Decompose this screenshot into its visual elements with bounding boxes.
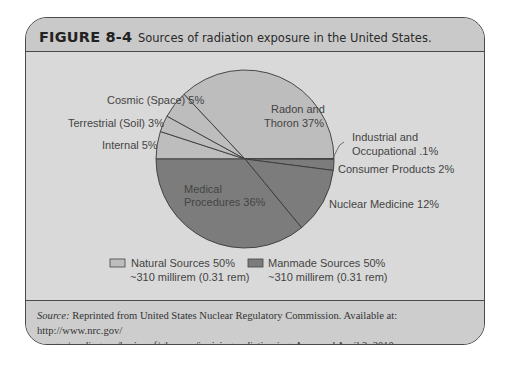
label-consumer: Consumer Products 2% bbox=[338, 163, 454, 175]
label-industrial-1: Industrial and bbox=[352, 131, 418, 143]
legend-natural-sub: ~310 millirem (0.31 rem) bbox=[130, 271, 250, 283]
label-nuclear: Nuclear Medicine 12% bbox=[329, 198, 439, 210]
pie-chart: Cosmic (Space) 5% Terrestrial (Soil) 3% … bbox=[0, 0, 508, 365]
label-industrial-2: Occupational .1% bbox=[352, 145, 438, 157]
legend-swatch-natural bbox=[110, 259, 125, 267]
legend-natural-label: Natural Sources 50% bbox=[131, 257, 235, 269]
legend-manmade-sub: ~310 millirem (0.31 rem) bbox=[268, 271, 388, 283]
legend-manmade-label: Manmade Sources 50% bbox=[268, 257, 386, 269]
label-radon-1: Radon and bbox=[271, 103, 325, 115]
label-medical-1: Medical bbox=[184, 183, 222, 195]
label-radon-2: Thoron 37% bbox=[264, 117, 324, 129]
label-internal: Internal 5% bbox=[102, 139, 158, 151]
label-terrestrial: Terrestrial (Soil) 3% bbox=[68, 117, 164, 129]
legend-swatch-manmade bbox=[248, 259, 263, 267]
label-medical-2: Procedures 36% bbox=[184, 196, 266, 208]
industrial-leader-line bbox=[333, 142, 344, 158]
label-cosmic: Cosmic (Space) 5% bbox=[107, 94, 204, 106]
